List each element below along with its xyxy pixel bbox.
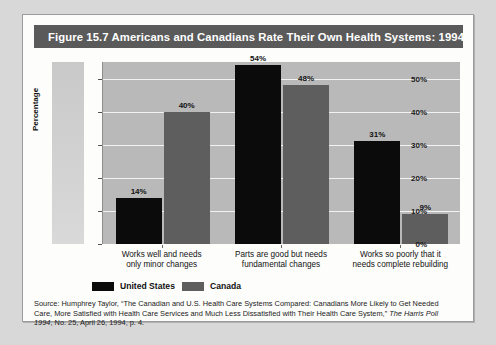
y-axis-tick-mark — [98, 145, 102, 146]
x-axis-tick-mark — [281, 245, 282, 248]
source-citation: Source: Humphrey Taylor, “The Canadian a… — [34, 299, 458, 328]
legend-label: Canada — [210, 281, 241, 291]
page-title: Figure 15.7 Americans and Canadians Rate… — [34, 31, 464, 43]
bar-value-label: 54% — [250, 54, 266, 63]
legend-swatch — [182, 282, 204, 291]
x-axis-category-line: Works well and needs — [122, 250, 202, 260]
bar-value-label: 14% — [131, 187, 147, 196]
bar-canada-group-2 — [283, 85, 329, 244]
chart-legend: United StatesCanada — [34, 278, 463, 294]
legend-item-canada: Canada — [182, 281, 241, 291]
y-axis-tick-mark — [98, 79, 102, 80]
bar-value-label: 40% — [179, 101, 195, 110]
bar-value-label: 48% — [298, 74, 314, 83]
y-axis-tick-label: 0% — [415, 240, 427, 249]
y-axis-tick-label: 10% — [411, 206, 427, 215]
x-axis-category-line: needs complete rebuilding — [353, 260, 449, 270]
figure-card: Figure 15.7 Americans and Canadians Rate… — [22, 14, 474, 322]
bar-canada-group-1 — [164, 112, 210, 244]
source-text-part1: Source: Humphrey Taylor, “The Canadian a… — [34, 299, 439, 318]
bar-united-states-group-3 — [354, 141, 400, 244]
y-axis-tick-label: 30% — [411, 140, 427, 149]
plot-area: 14%40%54%48%31%9% — [102, 62, 460, 244]
y-axis-tick-mark — [98, 244, 102, 245]
y-axis-strip — [52, 62, 84, 244]
gridline — [103, 79, 460, 80]
legend-swatch — [92, 282, 114, 291]
x-axis-category-label: Works well and needsonly minor changes — [122, 250, 202, 270]
y-axis-tick-mark — [98, 211, 102, 212]
bar-value-label: 31% — [369, 130, 385, 139]
x-axis-category-line: Parts are good but needs — [235, 250, 327, 260]
y-axis-tick-label: 40% — [411, 107, 427, 116]
figure-title-bar: Figure 15.7 Americans and Canadians Rate… — [34, 25, 463, 48]
gridline — [103, 178, 460, 179]
y-axis-tick-label: 20% — [411, 173, 427, 182]
source-text-part2: , No. 25, April 26, 1994, p. 4. — [50, 318, 144, 327]
x-axis-category-label: Works so poorly that itneeds complete re… — [353, 250, 449, 270]
x-axis-category-line: Works so poorly that it — [353, 250, 449, 260]
y-axis-tick-mark — [98, 112, 102, 113]
x-axis-tick-mark — [162, 245, 163, 248]
legend-label: United States — [120, 281, 175, 291]
y-axis-tick-mark — [98, 178, 102, 179]
x-axis-category-line: only minor changes — [122, 260, 202, 270]
x-axis-category-line: fundamental changes — [235, 260, 327, 270]
y-axis-tick-label: 50% — [411, 74, 427, 83]
bar-united-states-group-1 — [116, 198, 162, 244]
bar-united-states-group-2 — [235, 65, 281, 244]
legend-item-united-states: United States — [92, 281, 175, 291]
x-axis-tick-mark — [400, 245, 401, 248]
chart-region: Percentage 14%40%54%48%31%9% 0%10%20%30%… — [34, 55, 463, 273]
gridline — [103, 112, 460, 113]
gridline — [103, 145, 460, 146]
x-axis-category-label: Parts are good but needsfundamental chan… — [235, 250, 327, 270]
y-axis-title: Percentage — [31, 88, 40, 131]
